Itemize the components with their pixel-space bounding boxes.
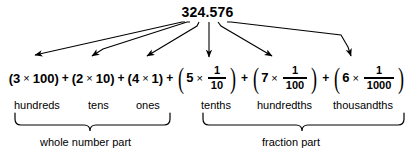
digit: 3 (13, 71, 20, 86)
label-tenths: tenths (201, 99, 231, 111)
label-whole-number-part: whole number part (40, 136, 131, 148)
place-value: 10 (96, 71, 110, 86)
label-hundredths: hundredths (257, 99, 312, 111)
label-tens: tens (88, 99, 109, 111)
paren-open: ( (334, 65, 340, 91)
times-icon: × (83, 72, 95, 84)
term-hundredths: (7×1100) (251, 65, 319, 91)
times-icon: × (20, 72, 32, 84)
paren-close: ) (398, 65, 404, 91)
fraction-one-tenth: 110 (206, 65, 228, 91)
brace-whole-number-part (15, 113, 170, 131)
label-thousandths: thousandths (333, 99, 393, 111)
place-value-diagram: 324.576 (0, 0, 415, 156)
plus-sign: + (319, 71, 332, 85)
denominator: 100 (283, 80, 307, 92)
times-icon: × (139, 72, 151, 84)
times-icon: × (268, 72, 280, 84)
place-value: 100 (33, 71, 55, 86)
label-ones: ones (136, 99, 160, 111)
denominator: 10 (208, 80, 226, 92)
term-thousandths: (6×11000) (332, 65, 406, 91)
digit: 4 (132, 71, 139, 86)
digit: 6 (342, 70, 349, 85)
brace-fraction-part (203, 113, 404, 131)
digit: 5 (186, 70, 193, 85)
arrow-hundredths (218, 22, 272, 56)
arrow-hundreds (35, 22, 185, 55)
numerator: 1 (373, 65, 385, 77)
arrow-ones (147, 22, 199, 56)
paren-open: ( (253, 65, 259, 91)
paren-open: ( (178, 65, 184, 91)
numerator: 1 (289, 65, 301, 77)
place-value: 1 (152, 71, 159, 86)
times-icon: × (349, 72, 361, 84)
plus-sign: + (115, 71, 128, 85)
plus-sign: + (59, 71, 72, 85)
term-hundreds: (3×100) (9, 71, 59, 86)
term-tens: (2×10) (72, 71, 115, 86)
term-tenths: (5×110) (176, 65, 238, 91)
paren-close: ) (230, 65, 236, 91)
denominator: 1000 (364, 80, 394, 92)
paren-close: ) (311, 65, 317, 91)
label-hundreds: hundreds (14, 99, 60, 111)
plus-sign: + (238, 71, 251, 85)
digit: 7 (261, 70, 268, 85)
arrow-thousandths (227, 22, 351, 56)
digit: 2 (76, 71, 83, 86)
label-fraction-part: fraction part (262, 136, 320, 148)
times-icon: × (193, 72, 205, 84)
fraction-one-thousandth: 11000 (362, 65, 396, 91)
term-ones: (4×1) (128, 71, 164, 86)
fraction-one-hundredth: 1100 (281, 65, 309, 91)
numerator: 1 (211, 65, 223, 77)
plus-sign: + (163, 71, 176, 85)
decimal-number-324-576: 324.576 (0, 4, 415, 20)
expanded-form-expression: (3×100) + (2×10) + (4×1) + (5×110) + (7×… (0, 58, 415, 98)
arrow-tens (92, 22, 190, 56)
